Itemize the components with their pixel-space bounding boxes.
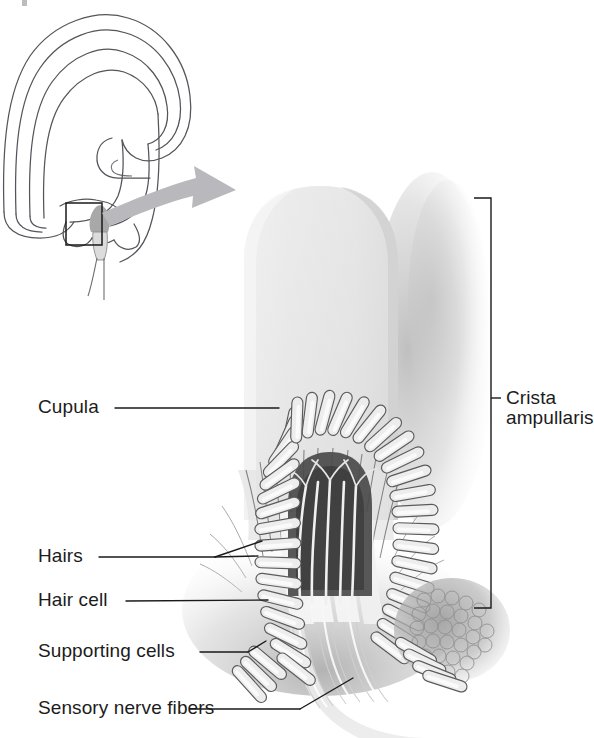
label-crista-ampullaris-line1: Crista [506, 388, 594, 408]
leader-hairs [99, 541, 262, 557]
leader-supporting-cells [200, 641, 266, 652]
label-hair-cell: Hair cell [38, 589, 108, 611]
label-sensory-nerve-fibers: Sensory nerve fibers [38, 697, 214, 719]
label-cupula: Cupula [38, 396, 99, 418]
label-crista-ampullaris-line2: ampullaris [506, 408, 594, 428]
leader-sensory-nerve-fibers [190, 678, 353, 709]
leader-hair-cell [126, 600, 268, 601]
label-hairs: Hairs [38, 545, 83, 567]
label-supporting-cells: Supporting cells [38, 640, 175, 662]
label-crista-ampullaris: Crista ampullaris [506, 388, 594, 428]
bracket-crista-ampullaris [474, 198, 501, 608]
